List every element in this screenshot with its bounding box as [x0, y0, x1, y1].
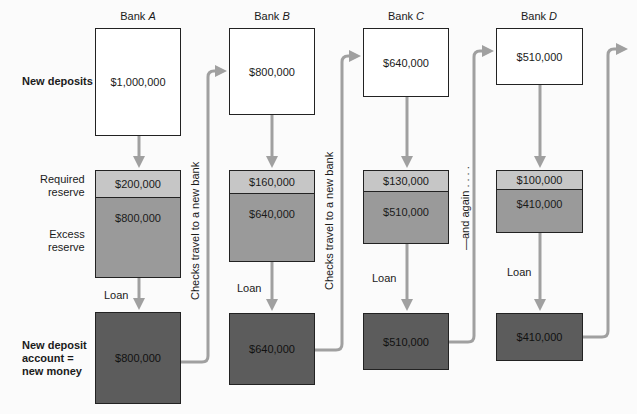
required-reserve-value: $200,000	[115, 178, 161, 190]
loan-label-a: Loan	[104, 289, 128, 301]
row-label-excess-reserve: Excess reserve	[48, 228, 85, 254]
excess-reserve-box-b: $640,000	[229, 193, 315, 262]
new-money-value: $640,000	[249, 343, 295, 355]
new-money-value: $510,000	[383, 336, 429, 348]
excess-reserve-box-c: $510,000	[363, 191, 449, 244]
required-reserve-box-d: $100,000	[496, 170, 583, 189]
new-deposit-value: $640,000	[383, 57, 429, 69]
new-deposit-box-a: $1,000,000	[95, 28, 181, 136]
loan-label-b: Loan	[237, 282, 261, 294]
new-money-value: $410,000	[517, 331, 563, 343]
checks-travel-label-1: Checks travel to a new bank	[189, 162, 201, 300]
row-label-new-deposits: New deposits	[22, 75, 93, 88]
new-deposit-value: $510,000	[517, 51, 563, 63]
new-money-box-b: $640,000	[229, 313, 315, 385]
new-money-box-d: $410,000	[496, 313, 583, 361]
required-reserve-box-b: $160,000	[229, 170, 315, 193]
required-reserve-value: $100,000	[517, 174, 563, 186]
bank-title-d: Bank D	[489, 10, 589, 22]
row-label-new-deposit-account: New deposit account = new money	[22, 339, 87, 378]
new-money-value: $800,000	[115, 352, 161, 364]
new-money-box-a: $800,000	[95, 312, 181, 404]
required-reserve-value: $130,000	[383, 175, 429, 187]
new-deposit-box-b: $800,000	[229, 28, 315, 115]
excess-reserve-value: $410,000	[517, 198, 563, 210]
excess-reserve-value: $640,000	[249, 208, 295, 220]
new-deposit-box-c: $640,000	[363, 28, 449, 97]
required-reserve-box-a: $200,000	[95, 170, 181, 197]
and-again-label: —and again . . . .	[459, 166, 471, 250]
excess-reserve-value: $800,000	[115, 212, 161, 224]
excess-reserve-box-a: $800,000	[95, 197, 181, 278]
loan-label-d: Loan	[507, 266, 531, 278]
excess-reserve-value: $510,000	[383, 206, 429, 218]
new-deposit-box-d: $510,000	[496, 28, 583, 85]
bank-title-c: Bank C	[356, 10, 456, 22]
required-reserve-value: $160,000	[249, 176, 295, 188]
bank-title-a: Bank A	[88, 10, 188, 22]
loan-label-c: Loan	[372, 272, 396, 284]
new-deposit-value: $800,000	[249, 66, 295, 78]
required-reserve-box-c: $130,000	[363, 170, 449, 191]
excess-reserve-box-d: $410,000	[496, 189, 583, 233]
new-deposit-value: $1,000,000	[110, 76, 165, 88]
new-money-box-c: $510,000	[363, 313, 449, 370]
checks-travel-label-2: Checks travel to a new bank	[323, 152, 335, 290]
bank-title-b: Bank B	[222, 10, 322, 22]
row-label-required-reserve: Required reserve	[40, 173, 85, 199]
